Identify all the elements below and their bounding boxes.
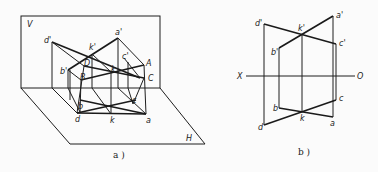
plane-label-h: H: [186, 134, 192, 143]
projector: [52, 42, 84, 66]
label-a: a: [330, 119, 335, 128]
label-d-prime: d': [255, 19, 262, 28]
line-ba-v: [279, 16, 333, 48]
label-c: c: [132, 96, 137, 105]
figure-b: X O d' a' k' c' b' b k c a d b ): [236, 11, 363, 157]
label-c-prime: c': [122, 52, 129, 61]
label-B: B: [80, 73, 86, 82]
caption-a: a ): [113, 150, 125, 160]
label-d: d: [258, 123, 264, 132]
label-a: a: [146, 116, 151, 125]
label-d-prime: d': [44, 36, 51, 45]
label-b-prime: b': [271, 48, 278, 57]
axis-label-o: O: [357, 72, 363, 81]
label-d: d: [75, 115, 81, 124]
label-k-prime: k': [298, 24, 305, 33]
label-b: b: [273, 104, 278, 113]
plane-label-v: V: [27, 20, 33, 29]
label-A: A: [145, 59, 151, 68]
axis-label-x: X: [236, 72, 243, 81]
projector: [52, 88, 77, 113]
label-b: b: [78, 102, 83, 111]
projector: [92, 88, 111, 114]
label-k-prime: k': [89, 43, 96, 52]
label-c-prime: c': [339, 39, 346, 48]
label-K: k: [111, 65, 116, 74]
projection-diagram: V H d' k' a' c' b' A C D B k b d k a c a…: [0, 0, 378, 172]
label-D: D: [84, 59, 90, 68]
label-a-prime: a': [115, 28, 122, 37]
label-C: C: [148, 74, 154, 83]
label-k: k: [110, 116, 115, 125]
line-ba-h: [279, 108, 333, 117]
caption-b: b ): [298, 147, 310, 157]
projector: [144, 65, 146, 114]
label-c: c: [339, 94, 344, 103]
label-b-prime: b': [60, 67, 67, 76]
figure-a: V H d' k' a' c' b' A C D B k b d k a c a…: [21, 16, 205, 160]
label-a-prime: a': [336, 11, 343, 20]
label-k: k: [300, 114, 305, 123]
line-da-h: [77, 113, 146, 114]
